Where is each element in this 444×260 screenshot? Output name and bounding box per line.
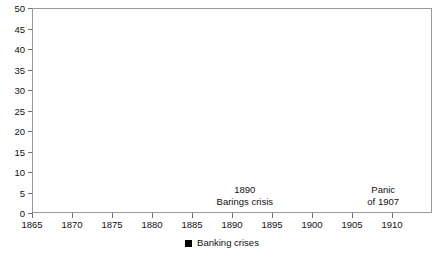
annotation-line-2: Barings crisis [217,196,274,208]
annotation-line-1: 1890 [217,184,274,196]
annotation-barings-crisis: 1890 Barings crisis [217,184,274,207]
x-tick-label: 1905 [341,220,362,230]
y-tick-label: 40 [14,45,25,55]
x-tick-mark [152,213,153,218]
x-tick-label: 1910 [381,220,402,230]
annotation-line-1: Panic [367,184,399,196]
x-tick-label: 1885 [181,220,202,230]
x-tick-label: 1875 [101,220,122,230]
y-tick-label: 20 [14,127,25,137]
legend: Banking crises [0,238,444,248]
x-tick-mark [112,213,113,218]
annotation-line-2: of 1907 [367,196,399,208]
y-tick-label: 45 [14,25,25,35]
x-tick-mark [32,213,33,218]
x-tick-mark [72,213,73,218]
x-tick-mark [352,213,353,218]
plot-frame [32,8,432,213]
x-tick-mark [192,213,193,218]
y-axis: 50 45 40 35 30 25 20 15 10 5 0 [0,0,32,220]
x-tick-mark [312,213,313,218]
y-tick-label: 50 [14,4,25,14]
y-tick-label: 15 [14,148,25,158]
x-tick-label: 1865 [21,220,42,230]
y-tick-label: 35 [14,66,25,76]
x-tick-label: 1895 [261,220,282,230]
y-tick-label: 30 [14,86,25,96]
x-tick-mark [272,213,273,218]
legend-label-banking-crises: Banking crises [197,238,259,248]
x-tick-label: 1890 [221,220,242,230]
y-tick-label: 0 [20,209,25,219]
x-tick-label: 1900 [301,220,322,230]
y-tick-label: 25 [14,107,25,117]
chart-container: 50 45 40 35 30 25 20 15 10 5 0 1890 Bari… [0,0,444,260]
legend-swatch-banking-crises [185,240,192,247]
y-tick-label: 10 [14,168,25,178]
x-tick-mark [392,213,393,218]
x-tick-label: 1880 [141,220,162,230]
x-tick-label: 1870 [61,220,82,230]
x-tick-mark [232,213,233,218]
y-tick-label: 5 [20,189,25,199]
annotation-panic-of-1907: Panic of 1907 [367,184,399,207]
